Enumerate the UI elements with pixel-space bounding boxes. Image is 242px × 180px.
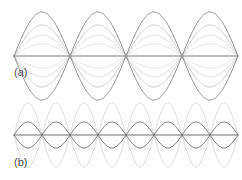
panel-b-label: (b) bbox=[14, 156, 27, 168]
panels-group bbox=[14, 12, 238, 167]
wave-canvas: (a)(b) bbox=[0, 0, 242, 180]
panel-a bbox=[14, 12, 238, 100]
standing-wave-figure: (a)(b) bbox=[0, 0, 242, 180]
panel-b bbox=[14, 103, 238, 167]
panel-a-label: (a) bbox=[14, 66, 27, 78]
